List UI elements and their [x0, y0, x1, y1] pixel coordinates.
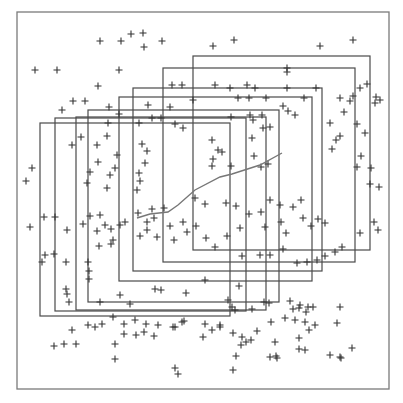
plus-marker-icon [290, 306, 297, 313]
plus-marker-icon [290, 204, 297, 211]
plus-marker-icon [200, 334, 207, 341]
plus-marker-icon [118, 38, 125, 45]
plus-marker-icon [338, 355, 345, 362]
plus-marker-icon [350, 37, 357, 44]
plus-marker-icon [301, 95, 308, 102]
plus-marker-icon [61, 341, 68, 348]
plus-marker-icon [202, 277, 209, 284]
plus-marker-icon [327, 120, 334, 127]
plus-marker-icon [306, 327, 313, 334]
plus-marker-icon [329, 146, 336, 153]
plus-marker-icon [239, 334, 246, 341]
plus-marker-icon [82, 98, 89, 105]
plus-marker-icon [228, 114, 235, 121]
plus-marker-icon [333, 137, 340, 144]
plus-marker-icon [97, 212, 104, 219]
plus-marker-icon [112, 165, 119, 172]
plus-marker-icon [280, 246, 287, 253]
plus-marker-icon [236, 283, 243, 290]
plus-marker-icon [367, 181, 374, 188]
plus-marker-icon [78, 134, 85, 141]
plus-marker-icon [285, 108, 292, 115]
plus-marker-icon [51, 251, 58, 258]
plus-marker-icon [144, 148, 151, 155]
plus-marker-icon [95, 83, 102, 90]
plus-marker-icon [107, 172, 114, 179]
plus-marker-icon [341, 109, 348, 116]
plus-marker-icon [267, 354, 274, 361]
scatter-plot [0, 0, 403, 403]
plus-marker-icon [85, 322, 92, 329]
plus-marker-icon [141, 44, 148, 51]
plus-marker-icon [209, 327, 216, 334]
plus-marker-icon [51, 343, 58, 350]
plus-marker-icon [233, 353, 240, 360]
plus-marker-icon [161, 205, 168, 212]
plus-marker-icon [95, 159, 102, 166]
points-layer [23, 30, 384, 378]
plus-marker-icon [249, 306, 256, 313]
plus-marker-icon [180, 219, 187, 226]
plus-marker-icon [139, 141, 146, 148]
plus-marker-icon [180, 125, 187, 132]
plus-marker-icon [337, 133, 344, 140]
plus-marker-icon [29, 165, 36, 172]
plus-marker-icon [258, 209, 265, 216]
plus-marker-icon [233, 203, 240, 210]
plus-marker-icon [337, 304, 344, 311]
plus-marker-icon [121, 331, 128, 338]
plus-marker-icon [152, 286, 159, 293]
trend-line [137, 153, 282, 218]
plus-marker-icon [230, 367, 237, 374]
plus-marker-icon [151, 333, 158, 340]
plus-marker-icon [104, 133, 111, 140]
plus-marker-icon [110, 314, 117, 321]
plus-marker-icon [237, 225, 244, 232]
plus-marker-icon [362, 130, 369, 137]
plus-marker-icon [94, 228, 101, 235]
plus-marker-icon [376, 184, 383, 191]
plus-marker-icon [92, 324, 99, 331]
plus-marker-icon [151, 215, 158, 222]
plus-marker-icon [155, 322, 162, 329]
plus-marker-icon [63, 286, 70, 293]
rectangle-4 [88, 110, 279, 302]
plus-marker-icon [94, 142, 101, 149]
plus-marker-icon [121, 321, 128, 328]
plus-marker-icon [287, 298, 294, 305]
plus-marker-icon [172, 365, 179, 372]
plus-marker-icon [32, 67, 39, 74]
plus-marker-icon [210, 43, 217, 50]
plus-marker-icon [202, 321, 209, 328]
plus-marker-icon [239, 253, 246, 260]
plus-marker-icon [358, 153, 365, 160]
plus-marker-icon [69, 142, 76, 149]
plus-marker-icon [69, 327, 76, 334]
plus-marker-icon [135, 210, 142, 217]
plus-marker-icon [228, 163, 235, 170]
plus-marker-icon [85, 259, 92, 266]
plus-marker-icon [304, 259, 311, 266]
plus-marker-icon [300, 215, 307, 222]
plus-marker-icon [66, 299, 73, 306]
plus-marker-icon [357, 85, 364, 92]
plus-marker-icon [167, 223, 174, 230]
plus-marker-icon [137, 233, 144, 240]
plus-marker-icon [136, 120, 143, 127]
plus-marker-icon [317, 43, 324, 50]
plus-marker-icon [315, 216, 322, 223]
plus-marker-icon [235, 95, 242, 102]
plus-marker-icon [171, 237, 178, 244]
plus-marker-icon [327, 352, 334, 359]
plus-marker-icon [141, 329, 148, 336]
plus-marker-icon [268, 319, 275, 326]
plus-marker-icon [284, 85, 291, 92]
plus-marker-icon [175, 371, 182, 378]
plus-marker-icon [337, 95, 344, 102]
plus-marker-icon [149, 206, 156, 213]
plus-marker-icon [137, 178, 144, 185]
plus-marker-icon [112, 341, 119, 348]
plus-marker-icon [54, 67, 61, 74]
plus-marker-icon [280, 103, 287, 110]
plus-marker-icon [292, 317, 299, 324]
